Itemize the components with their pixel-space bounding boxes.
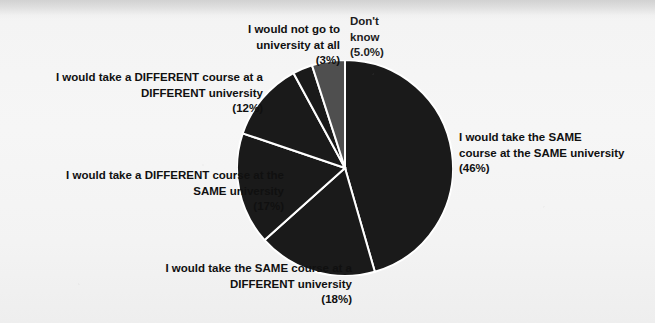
slice-label-different-course-same-university: I would take a DIFFERENT course at the S… [0,168,284,215]
slice-label-not-go-to-university: I would not go to university at all (3%) [160,22,340,69]
scan-bleed-band [0,0,655,22]
pie-chart-figure: I would take the SAME course at the SAME… [0,0,655,323]
slice-label-different-course-different-university: I would take a DIFFERENT course at a DIF… [10,70,263,117]
slice-label-same-course-same-university: I would take the SAME course at the SAME… [459,130,649,177]
slice-label-dont-know: Don't know (5.0%) [350,14,446,61]
slice-label-same-course-different-university: I would take the SAME course at a DIFFER… [92,261,352,308]
